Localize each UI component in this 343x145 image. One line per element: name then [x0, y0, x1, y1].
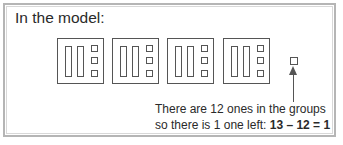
group-block-3 — [167, 38, 214, 84]
unit-square — [257, 70, 264, 77]
arrow-shaft — [293, 74, 294, 102]
unit-square — [257, 57, 264, 64]
bar-shape — [231, 46, 238, 77]
group-block-1 — [57, 38, 104, 84]
unit-square — [201, 57, 208, 64]
unit-square — [146, 45, 153, 52]
explanation-note: There are 12 ones in the groups so there… — [155, 102, 330, 133]
unit-square — [91, 45, 98, 52]
bar-shape — [187, 46, 194, 77]
bar-shape — [120, 46, 127, 77]
unit-square — [146, 70, 153, 77]
group-block-2 — [112, 38, 159, 84]
bar-shape — [132, 46, 139, 77]
unit-square — [257, 45, 264, 52]
bar-shape — [77, 46, 84, 77]
note-line-2: so there is 1 one left: 13 – 12 = 1 — [155, 118, 330, 134]
unit-square — [146, 57, 153, 64]
equation: 13 – 12 = 1 — [270, 118, 330, 132]
diagram-title: In the model: — [15, 9, 105, 27]
note-line-1: There are 12 ones in the groups — [155, 102, 330, 118]
bar-shape — [243, 46, 250, 77]
group-block-4 — [223, 38, 270, 84]
unit-square — [201, 70, 208, 77]
unit-square — [91, 57, 98, 64]
unit-square — [91, 70, 98, 77]
bar-shape — [175, 46, 182, 77]
unit-square — [201, 45, 208, 52]
leftover-unit-square — [290, 57, 298, 65]
note-line-2-prefix: so there is 1 one left: — [155, 118, 270, 132]
bar-shape — [65, 46, 72, 77]
